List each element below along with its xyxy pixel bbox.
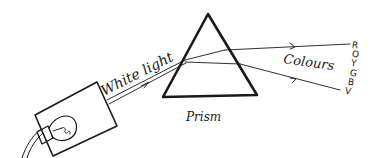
prism-diagram: White light Prism Colours R O Y G B V [0,0,374,158]
spectrum-labels: R O Y G B V [344,40,360,97]
prism [163,14,257,97]
white-light-label: White light [98,48,176,98]
power-cable [22,130,43,158]
light-bulb-icon [37,116,77,144]
spectrum-letter-v: V [344,86,353,97]
colours-label: Colours [283,51,336,73]
prism-label: Prism [185,110,221,124]
